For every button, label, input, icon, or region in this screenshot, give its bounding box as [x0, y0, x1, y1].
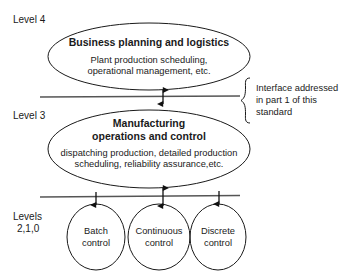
- business-planning-subtitle-line1: Plant production scheduling,: [49, 55, 249, 66]
- continuous-control-line2: control: [128, 238, 190, 250]
- levels-210-label-line2: 2,1,0: [17, 223, 39, 235]
- manufacturing-operations-subtitle-line2: scheduling, reliability assurance,etc.: [44, 159, 254, 170]
- interface-note-line3: standard: [256, 107, 292, 119]
- business-planning-subtitle-line2: operational management, etc.: [49, 66, 249, 77]
- batch-control-line2: control: [67, 238, 125, 250]
- functional-hierarchy-diagram: Level 4 Level 3 Levels 2,1,0 Business pl…: [0, 0, 355, 278]
- upper-divider-line: [40, 96, 240, 97]
- lower-divider-line: [40, 196, 240, 198]
- discrete-control-line2: control: [190, 238, 246, 250]
- interface-note-line2: in part 1 of this: [256, 95, 317, 107]
- level-3-label: Level 3: [13, 110, 45, 122]
- business-planning-title: Business planning and logistics: [49, 36, 249, 49]
- continuous-control-line1: Continuous: [128, 226, 190, 238]
- level-4-label: Level 4: [13, 14, 45, 26]
- manufacturing-operations-title-line2: operations and control: [49, 130, 249, 143]
- batch-control-line1: Batch: [67, 226, 125, 238]
- manufacturing-operations-title-line1: Manufacturing: [49, 117, 249, 130]
- levels-210-label-line1: Levels: [13, 211, 42, 223]
- interface-note-line1: Interface addressed: [256, 83, 338, 95]
- discrete-control-line1: Discrete: [190, 226, 246, 238]
- manufacturing-operations-subtitle-line1: dispatching production, detailed product…: [44, 148, 254, 159]
